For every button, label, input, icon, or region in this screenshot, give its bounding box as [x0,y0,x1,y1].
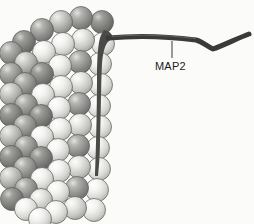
tubulin-subunit [68,156,91,179]
tubulin-subunit [69,51,92,74]
tubulin-subunit [70,72,93,95]
tubulin-subunit [72,29,95,52]
tubulin-subunit [69,114,92,137]
tubulin-subunit [91,11,114,34]
tubulin-subunit [86,179,109,202]
tubulin-subunit [70,7,93,30]
microtubule-map2-figure: MAP2 [0,0,254,224]
tubulin-subunit [67,135,90,158]
map2-label: MAP2 [155,60,186,72]
tubulin-subunit [68,93,91,116]
